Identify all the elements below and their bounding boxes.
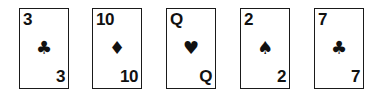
card-rank-bottom: 3 — [56, 68, 65, 85]
card-7-clubs[interactable]: 7 ♣ 7 — [314, 8, 364, 89]
heart-icon: ♥ — [167, 39, 215, 57]
card-rank-bottom: Q — [199, 68, 212, 85]
card-rank-top: Q — [170, 11, 183, 28]
diamond-icon: ♦ — [93, 39, 141, 57]
card-rank-top: 10 — [96, 11, 114, 28]
card-q-hearts[interactable]: Q ♥ Q — [166, 8, 216, 89]
card-10-diamonds[interactable]: 10 ♦ 10 — [92, 8, 142, 89]
card-rank-bottom: 10 — [120, 68, 138, 85]
spade-icon: ♠ — [241, 39, 289, 57]
card-rank-top: 7 — [318, 11, 327, 28]
card-rank-bottom: 7 — [351, 68, 360, 85]
card-rank-top: 2 — [244, 11, 253, 28]
club-icon: ♣ — [315, 39, 363, 57]
card-rank-top: 3 — [23, 11, 32, 28]
card-3-clubs[interactable]: 3 ♣ 3 — [19, 8, 69, 89]
card-2-spades[interactable]: 2 ♠ 2 — [240, 8, 290, 89]
club-icon: ♣ — [20, 39, 68, 57]
card-rank-bottom: 2 — [277, 68, 286, 85]
